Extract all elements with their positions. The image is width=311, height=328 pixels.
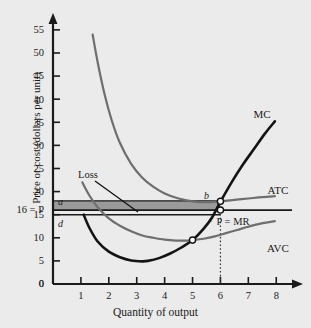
x-tick-label: 5 — [190, 290, 195, 301]
x-tick-label: 3 — [134, 290, 139, 301]
curve-avc — [82, 182, 275, 240]
y-tick-label: 55 — [34, 24, 45, 35]
point-b-label: b — [204, 190, 209, 201]
point-c-label: c — [209, 214, 213, 224]
point-d-label: d — [58, 218, 64, 229]
x-tick-label: 8 — [274, 290, 279, 301]
x-tick-label: 7 — [246, 290, 251, 301]
loss-annotation-label: Loss — [78, 169, 98, 180]
chart-axes — [49, 13, 304, 289]
point-a-label: a — [58, 196, 63, 207]
y-axis-title: Price or cost (dollars per unit) — [30, 38, 42, 238]
price-mr-curve-label: P = MR — [217, 216, 250, 227]
y-axis-arrowhead — [49, 13, 58, 24]
x-tick-label: 2 — [106, 290, 111, 301]
point-marker-c — [217, 207, 223, 213]
x-axis-title: Quantity of output — [0, 306, 311, 318]
x-tick-label: 6 — [218, 290, 223, 301]
atc-curve-label: ATC — [268, 184, 289, 196]
point-marker-b — [217, 198, 223, 204]
x-tick-label: 1 — [78, 290, 83, 301]
point-marker — [189, 237, 195, 243]
x-axis-ticks: 123456780 — [39, 277, 279, 301]
y-tick-label: 5 — [39, 255, 44, 266]
x-tick-label: 4 — [162, 290, 168, 301]
chart-figure: Price or cost (dollars per unit) Quantit… — [0, 0, 311, 328]
cost-curves — [82, 34, 275, 261]
curve-atc — [93, 34, 275, 202]
mc-curve-label: MC — [253, 108, 270, 120]
origin-label: 0 — [39, 278, 44, 289]
chart-plot-area: 051015202530354045505516 = P 123456780 L… — [0, 0, 311, 328]
avc-curve-label: AVC — [267, 242, 289, 254]
x-axis-arrowhead — [292, 280, 303, 289]
